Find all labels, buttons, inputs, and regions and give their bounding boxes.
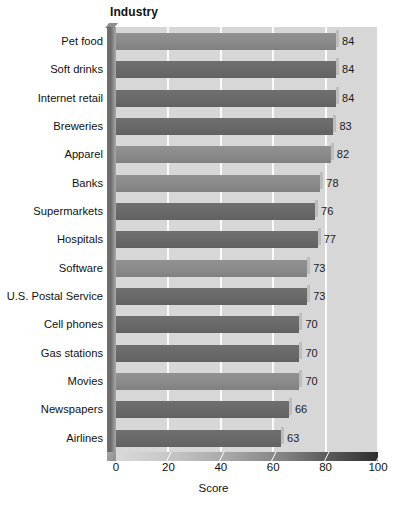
- bar-value-label: 84: [342, 64, 354, 75]
- bar-end-highlight: [299, 370, 302, 387]
- bar-value-label: 70: [305, 348, 317, 359]
- chart-title: Industry: [110, 5, 158, 19]
- bar-row[interactable]: [116, 197, 378, 225]
- bar-row[interactable]: [116, 27, 378, 55]
- x-tick-label: 80: [319, 462, 332, 474]
- bar-value-label: 73: [313, 291, 325, 302]
- bar-row[interactable]: [116, 254, 378, 282]
- bar[interactable]: [116, 430, 281, 447]
- bar-end-highlight: [320, 172, 323, 189]
- category-label: Pet food: [3, 36, 103, 47]
- bar-end-highlight: [336, 30, 339, 47]
- category-label: Supermarkets: [3, 206, 103, 217]
- bar[interactable]: [116, 203, 315, 220]
- value-axis-ticks: 020406080100: [0, 462, 397, 482]
- page-edge: [0, 503, 397, 509]
- category-label: Banks: [3, 178, 103, 189]
- bar-row[interactable]: [116, 55, 378, 83]
- plot-area: [116, 27, 378, 452]
- bar[interactable]: [116, 316, 299, 333]
- bar-end-highlight: [331, 143, 334, 160]
- bar-value-label: 84: [342, 36, 354, 47]
- bar-value-label: 78: [326, 178, 338, 189]
- category-label: Soft drinks: [3, 64, 103, 75]
- bar[interactable]: [116, 260, 307, 277]
- x-tick-label: 20: [162, 462, 175, 474]
- x-tick-label: 100: [368, 462, 387, 474]
- category-label: Hospitals: [3, 234, 103, 245]
- bar-end-highlight: [299, 342, 302, 359]
- bar-row[interactable]: [116, 367, 378, 395]
- x-tick-label: 40: [214, 462, 227, 474]
- category-label: Movies: [3, 376, 103, 387]
- bar[interactable]: [116, 146, 331, 163]
- bar-value-label: 77: [324, 234, 336, 245]
- bar[interactable]: [116, 118, 333, 135]
- value-axis-title-wrap: Score: [0, 482, 397, 494]
- bar-row[interactable]: [116, 424, 378, 452]
- category-label: Software: [3, 263, 103, 274]
- bar-end-highlight: [315, 200, 318, 217]
- category-label: Airlines: [3, 433, 103, 444]
- bar[interactable]: [116, 61, 336, 78]
- bar-row[interactable]: [116, 339, 378, 367]
- category-label: Internet retail: [3, 93, 103, 104]
- category-label: Cell phones: [3, 319, 103, 330]
- axis-floor-left-bevel: [107, 452, 116, 461]
- bar-end-highlight: [307, 257, 310, 274]
- bar-row[interactable]: [116, 310, 378, 338]
- bar[interactable]: [116, 373, 299, 390]
- bar[interactable]: [116, 345, 299, 362]
- category-label: Gas stations: [3, 348, 103, 359]
- category-label: U.S. Postal Service: [3, 291, 103, 302]
- category-label: Apparel: [3, 149, 103, 160]
- bar-value-label: 63: [287, 433, 299, 444]
- value-axis-title: Score: [198, 482, 228, 494]
- bar-row[interactable]: [116, 282, 378, 310]
- bar-value-label: 70: [305, 376, 317, 387]
- bar-end-highlight: [307, 285, 310, 302]
- bar-end-highlight: [336, 87, 339, 104]
- bar[interactable]: [116, 401, 289, 418]
- category-label: Newspapers: [3, 404, 103, 415]
- bar-end-highlight: [281, 427, 284, 444]
- bar-chart: Industry Pet foodSoft drinksInternet ret…: [0, 0, 397, 509]
- bar-end-highlight: [336, 58, 339, 75]
- bar-value-label: 66: [295, 404, 307, 415]
- bar-end-highlight: [333, 115, 336, 132]
- bar-value-label: 76: [321, 206, 333, 217]
- axis-wall-left: [107, 27, 116, 452]
- bar-row[interactable]: [116, 84, 378, 112]
- bar[interactable]: [116, 33, 336, 50]
- bar[interactable]: [116, 231, 318, 248]
- bar-end-highlight: [318, 228, 321, 245]
- bar-row[interactable]: [116, 169, 378, 197]
- bar-row[interactable]: [116, 225, 378, 253]
- bar-value-label: 82: [337, 149, 349, 160]
- axis-floor: [116, 452, 378, 461]
- bar-value-label: 73: [313, 263, 325, 274]
- x-tick-label: 60: [267, 462, 280, 474]
- bar-value-label: 84: [342, 93, 354, 104]
- bar-value-label: 83: [339, 121, 351, 132]
- bar[interactable]: [116, 175, 320, 192]
- bar-end-highlight: [289, 398, 292, 415]
- category-axis-labels: Pet foodSoft drinksInternet retailBrewer…: [0, 27, 103, 452]
- x-tick-label: 0: [113, 462, 119, 474]
- bar[interactable]: [116, 288, 307, 305]
- bar[interactable]: [116, 90, 336, 107]
- bar-end-highlight: [299, 313, 302, 330]
- category-label: Breweries: [3, 121, 103, 132]
- bar-row[interactable]: [116, 395, 378, 423]
- bar-value-label: 70: [305, 319, 317, 330]
